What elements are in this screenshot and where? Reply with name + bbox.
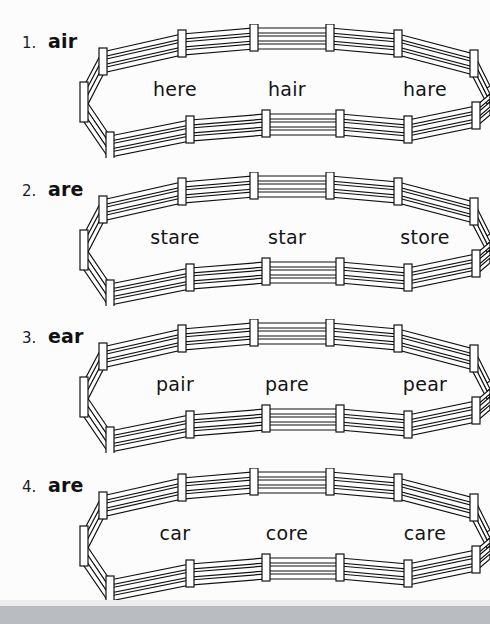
row-number-3: 3. — [22, 329, 48, 347]
worksheet-page: 1. air — [0, 0, 490, 624]
row-number-1: 1. — [22, 34, 48, 52]
corral-fence-4 — [78, 468, 490, 602]
row-label-1: 1. air — [22, 30, 77, 52]
worksheet-row-2: 2. are — [0, 154, 490, 306]
row-number-4: 4. — [22, 478, 48, 496]
page-bottom-band — [0, 606, 490, 624]
row-label-4: 4. are — [22, 474, 84, 496]
corral-fence-2 — [78, 172, 490, 306]
worksheet-row-1: 1. air — [0, 6, 490, 158]
row-label-2: 2. are — [22, 178, 84, 200]
worksheet-row-3: 3. ear — [0, 301, 490, 453]
worksheet-row-4: 4. are — [0, 450, 490, 602]
row-family-word-1: air — [48, 30, 77, 52]
row-number-2: 2. — [22, 182, 48, 200]
row-label-3: 3. ear — [22, 325, 84, 347]
corral-fence-1 — [78, 24, 490, 158]
corral-fence-3 — [78, 319, 490, 453]
